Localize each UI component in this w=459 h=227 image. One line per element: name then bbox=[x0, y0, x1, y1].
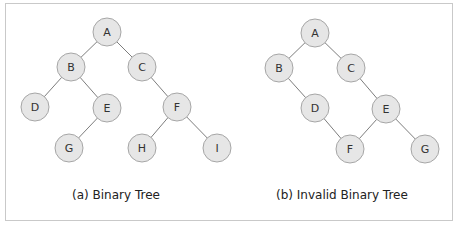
node-A: A bbox=[93, 18, 121, 46]
node-label: H bbox=[138, 142, 146, 155]
node-label: B bbox=[67, 61, 75, 74]
node-H: H bbox=[128, 134, 156, 162]
panel-invalid-binary-tree: ABCDEFG bbox=[265, 19, 439, 163]
node-C: C bbox=[128, 53, 156, 81]
node-D: D bbox=[21, 93, 49, 121]
node-I: I bbox=[203, 134, 231, 162]
node-label: A bbox=[311, 27, 319, 40]
caption-binary-tree: (a) Binary Tree bbox=[72, 188, 160, 202]
edges bbox=[35, 32, 217, 148]
node-G: G bbox=[411, 135, 439, 163]
node-E: E bbox=[372, 95, 400, 123]
node-label: F bbox=[174, 101, 180, 114]
node-label: C bbox=[138, 61, 146, 74]
edges bbox=[279, 33, 425, 149]
node-label: F bbox=[347, 143, 353, 156]
node-label: D bbox=[31, 101, 39, 114]
node-A: A bbox=[301, 19, 329, 47]
node-G: G bbox=[55, 134, 83, 162]
nodes: ABCDEFG bbox=[265, 19, 439, 163]
node-F: F bbox=[163, 93, 191, 121]
caption-invalid-binary-tree: (b) Invalid Binary Tree bbox=[276, 188, 408, 202]
node-label: B bbox=[275, 62, 283, 75]
node-label: A bbox=[103, 26, 111, 39]
node-label: D bbox=[311, 102, 319, 115]
node-label: E bbox=[104, 102, 111, 115]
node-C: C bbox=[337, 54, 365, 82]
node-D: D bbox=[301, 94, 329, 122]
node-label: C bbox=[347, 62, 355, 75]
nodes: ABCDEFGHI bbox=[21, 18, 231, 162]
node-E: E bbox=[93, 94, 121, 122]
node-B: B bbox=[265, 54, 293, 82]
node-label: I bbox=[215, 142, 218, 155]
panel-binary-tree: ABCDEFGHI bbox=[21, 18, 231, 162]
node-B: B bbox=[57, 53, 85, 81]
node-label: G bbox=[421, 143, 430, 156]
node-F: F bbox=[336, 135, 364, 163]
node-label: G bbox=[65, 142, 74, 155]
node-label: E bbox=[383, 103, 390, 116]
